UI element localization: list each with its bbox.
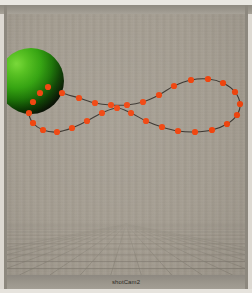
keyframe-marker[interactable] (159, 124, 165, 130)
keyframe-marker[interactable] (54, 129, 60, 135)
keyframe-marker[interactable] (76, 95, 82, 101)
keyframe-marker[interactable] (40, 127, 46, 133)
keyframe-marker[interactable] (209, 127, 215, 133)
green-sphere (7, 48, 64, 114)
keyframe-marker[interactable] (30, 99, 36, 105)
window-frame-bottom (0, 289, 252, 293)
keyframe-marker[interactable] (30, 120, 36, 126)
keyframe-marker[interactable] (143, 118, 149, 124)
keyframe-marker[interactable] (114, 105, 120, 111)
keyframe-marker[interactable] (140, 99, 146, 105)
keyframe-marker[interactable] (69, 125, 75, 131)
keyframe-marker[interactable] (59, 90, 65, 96)
keyframe-marker[interactable] (175, 128, 181, 134)
window-frame-right-inner (245, 5, 248, 293)
window-titlebar-band (0, 5, 252, 14)
keyframe-marker[interactable] (171, 83, 177, 89)
keyframe-marker[interactable] (234, 112, 240, 118)
keyframe-marker[interactable] (128, 110, 134, 116)
keyframe-marker[interactable] (84, 118, 90, 124)
keyframe-marker[interactable] (108, 102, 114, 108)
keyframe-marker[interactable] (220, 80, 226, 86)
keyframe-marker[interactable] (45, 84, 51, 90)
perspective-viewport[interactable] (7, 14, 245, 275)
keyframe-marker[interactable] (237, 101, 243, 107)
keyframe-marker[interactable] (205, 76, 211, 82)
keyframe-marker[interactable] (124, 102, 130, 108)
keyframe-marker[interactable] (224, 121, 230, 127)
ground-plane-grid (7, 224, 245, 275)
camera-name-bar: shotCam2 (7, 275, 245, 289)
keyframe-marker[interactable] (99, 110, 105, 116)
keyframe-marker[interactable] (37, 90, 43, 96)
keyframe-marker[interactable] (156, 92, 162, 98)
keyframe-marker[interactable] (232, 89, 238, 95)
keyframe-marker[interactable] (26, 110, 32, 116)
render-window: shotCam2 (0, 0, 252, 293)
keyframe-marker[interactable] (188, 77, 194, 83)
keyframe-marker[interactable] (192, 129, 198, 135)
keyframe-marker[interactable] (92, 100, 98, 106)
window-frame-right (248, 0, 252, 293)
viewport-canvas (7, 14, 245, 275)
camera-name-label: shotCam2 (112, 279, 140, 285)
